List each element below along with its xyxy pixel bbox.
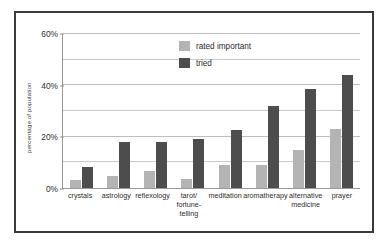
bar-rated-important <box>144 171 155 188</box>
bar-tried <box>119 142 130 188</box>
bar-rated-important <box>293 150 304 189</box>
chart-plot-wrapper: percentage of population 0%20%40%60% cry… <box>16 13 372 231</box>
y-axis-tick-label: 60% <box>41 29 58 39</box>
bar-tried <box>82 167 93 188</box>
x-axis-tick-label: meditation <box>207 189 243 219</box>
legend-swatch-tried-icon <box>179 58 190 68</box>
bar-group <box>286 34 323 188</box>
bar-rated-important <box>256 165 267 188</box>
bar-group <box>249 34 286 188</box>
legend-item-tried: tried <box>179 58 251 68</box>
x-axis-tick-label: astrology <box>98 189 134 219</box>
bar-tried <box>305 89 316 188</box>
y-axis-tick-label: 20% <box>41 132 58 142</box>
bar-rated-important <box>330 129 341 188</box>
bar-group <box>63 34 100 188</box>
x-axis-tick-label: alternative medicine <box>288 189 324 219</box>
bar-rated-important <box>181 179 192 188</box>
x-axis-tick-label: reflexology <box>134 189 170 219</box>
legend-item-rated-important: rated important <box>179 41 251 51</box>
x-axis-tick-labels: crystalsastrologyreflexologytarot/ fortu… <box>62 189 360 219</box>
bar-tried <box>268 106 279 188</box>
x-axis-tick-label: crystals <box>62 189 98 219</box>
y-axis-tick-label: 40% <box>41 81 58 91</box>
bar-tried <box>231 130 242 188</box>
y-axis-tick-labels: 0%20%40%60% <box>32 13 60 231</box>
x-axis-tick-label: prayer <box>324 189 360 219</box>
legend-swatch-rated-important-icon <box>179 41 190 51</box>
bar-rated-important <box>219 165 230 188</box>
bar-tried <box>156 142 167 188</box>
x-axis-tick-label: aromatherapy <box>243 189 287 219</box>
bar-group <box>323 34 360 188</box>
bar-rated-important <box>107 176 118 188</box>
bar-tried <box>342 75 353 188</box>
bar-group <box>137 34 174 188</box>
chart-legend: rated important tried <box>179 41 251 75</box>
y-axis-tick-label: 0% <box>46 184 58 194</box>
bar-rated-important <box>70 180 81 188</box>
bar-tried <box>193 139 204 188</box>
chart-figure-frame: percentage of population 0%20%40%60% cry… <box>14 11 374 233</box>
bar-group <box>100 34 137 188</box>
legend-label-tried: tried <box>196 59 212 68</box>
legend-label-rated-important: rated important <box>196 42 251 51</box>
x-axis-tick-label: tarot/ fortune-telling <box>171 189 207 219</box>
